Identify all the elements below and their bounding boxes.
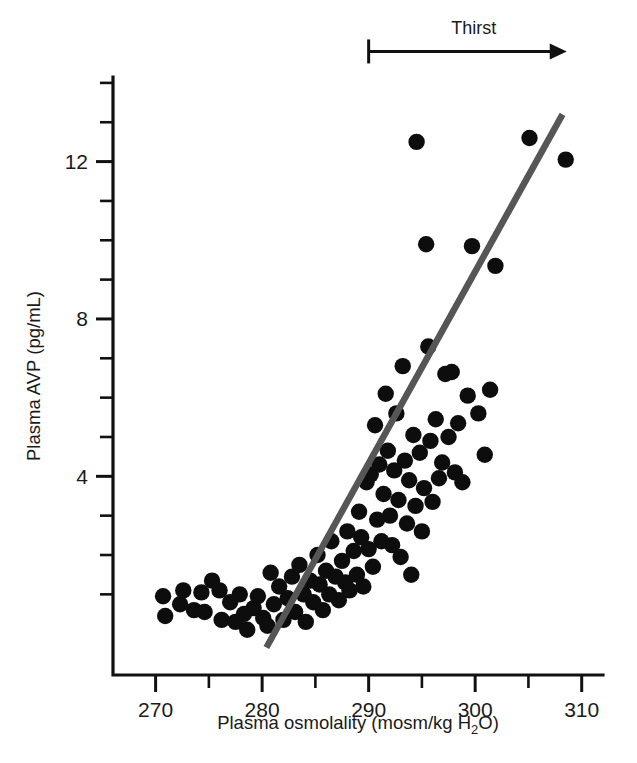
data-point — [365, 559, 381, 575]
data-point — [450, 415, 466, 431]
data-point — [403, 566, 419, 582]
x-axis-title-subscript: 2 — [471, 722, 478, 737]
data-point — [392, 549, 408, 565]
plot-background — [0, 0, 637, 763]
data-point — [196, 604, 212, 620]
scatter-plot-svg: 4812 270280290300310 Thirst Plasma osmol… — [0, 0, 637, 763]
y-axis-tick-label: 4 — [76, 465, 88, 488]
data-point — [315, 602, 331, 618]
data-point — [422, 433, 438, 449]
data-point — [405, 427, 421, 443]
data-point — [460, 387, 476, 403]
data-point — [416, 480, 432, 496]
data-point — [239, 622, 255, 638]
y-axis-title: Plasma AVP (pg/mL) — [23, 291, 44, 461]
avp-osmolality-figure: 4812 270280290300310 Thirst Plasma osmol… — [0, 0, 637, 763]
data-point — [298, 614, 314, 630]
data-point — [232, 586, 248, 602]
data-point — [378, 386, 394, 402]
data-point — [428, 411, 444, 427]
data-point — [341, 582, 357, 598]
data-point — [390, 492, 406, 508]
data-point — [477, 446, 493, 462]
data-point — [521, 130, 537, 146]
data-point — [157, 608, 173, 624]
data-point — [454, 474, 470, 490]
x-axis-tick-label: 270 — [138, 698, 173, 721]
x-axis-title-suffix: O) — [478, 712, 499, 733]
data-point — [213, 612, 229, 628]
data-point — [401, 472, 417, 488]
data-point — [444, 364, 460, 380]
data-point — [367, 417, 383, 433]
y-axis-tick-label: 8 — [76, 307, 88, 330]
thirst-label: Thirst — [451, 18, 496, 38]
data-point — [346, 543, 362, 559]
data-point — [175, 582, 191, 598]
data-point — [487, 258, 503, 274]
data-point — [375, 486, 391, 502]
data-point — [399, 515, 415, 531]
data-point — [558, 151, 574, 167]
data-point — [155, 588, 171, 604]
data-point — [395, 358, 411, 374]
data-point — [470, 405, 486, 421]
data-point — [482, 382, 498, 398]
data-point — [355, 578, 371, 594]
data-point — [382, 507, 398, 523]
data-point — [418, 236, 434, 252]
data-point — [414, 523, 430, 539]
data-point — [408, 134, 424, 150]
data-point — [431, 470, 447, 486]
y-axis-tick-label: 12 — [65, 150, 88, 173]
x-axis-tick-label: 310 — [564, 698, 599, 721]
data-point — [440, 429, 456, 445]
data-point — [351, 504, 367, 520]
data-point — [291, 557, 307, 573]
data-point — [262, 565, 278, 581]
data-point — [407, 498, 423, 514]
data-point — [250, 588, 266, 604]
data-point — [464, 238, 480, 254]
x-axis-title-prefix: Plasma osmolality (mosm/kg H — [217, 712, 471, 733]
data-point — [424, 494, 440, 510]
data-point — [397, 452, 413, 468]
